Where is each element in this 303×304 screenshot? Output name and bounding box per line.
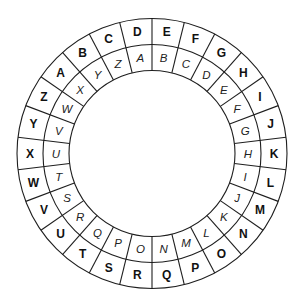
- inner-letter: X: [75, 84, 85, 96]
- inner-ring-letters: BCDEFGHIJKLMNOPQRSTUVWXYZA: [52, 52, 253, 255]
- outer-letter: S: [105, 261, 113, 275]
- inner-letter: O: [136, 243, 145, 255]
- outer-letter: R: [133, 268, 142, 282]
- outer-letter: D: [133, 25, 142, 39]
- outer-letter: X: [26, 147, 34, 161]
- outer-letter: E: [163, 25, 171, 39]
- outer-letter: A: [56, 66, 65, 80]
- inner-letter: E: [220, 84, 228, 96]
- outer-letter: M: [255, 203, 265, 217]
- inner-letter: N: [159, 243, 168, 255]
- inner-letter: Y: [94, 69, 103, 81]
- inner-letter: M: [181, 237, 191, 249]
- inner-letter: D: [202, 69, 210, 81]
- outer-letter: O: [217, 247, 226, 261]
- inner-letter: J: [233, 192, 240, 204]
- inner-letter: B: [160, 52, 168, 64]
- outer-letter: C: [104, 32, 113, 46]
- inner-letter: F: [233, 103, 241, 115]
- inner-letter: R: [76, 211, 84, 223]
- outer-letter: G: [217, 46, 226, 60]
- inner-letter: W: [62, 103, 74, 115]
- outer-letter: P: [191, 261, 199, 275]
- outer-letter: H: [239, 66, 248, 80]
- outer-letter: F: [192, 32, 199, 46]
- inner-letter: U: [52, 148, 61, 160]
- outer-letter: T: [79, 247, 87, 261]
- inner-ring-edge: [69, 71, 235, 237]
- outer-letter: Z: [40, 90, 47, 104]
- inner-letter: C: [182, 58, 191, 70]
- inner-letter: P: [114, 237, 122, 249]
- outer-letter: N: [239, 227, 248, 241]
- outer-letter: I: [258, 90, 261, 104]
- inner-letter: G: [241, 125, 250, 137]
- inner-letter: L: [203, 227, 209, 239]
- outer-letter: J: [267, 117, 274, 131]
- segment-divider: [120, 22, 132, 72]
- outer-letter: V: [40, 203, 48, 217]
- inner-letter: T: [55, 171, 63, 183]
- outer-letter: Q: [162, 268, 171, 282]
- outer-letter: B: [78, 46, 87, 60]
- ring-divider: [43, 45, 261, 263]
- outer-letter: W: [28, 176, 40, 190]
- inner-letter: Z: [113, 58, 122, 70]
- outer-letter: L: [267, 176, 274, 190]
- inner-letter: Q: [93, 227, 102, 239]
- inner-letter: I: [244, 171, 248, 183]
- inner-letter: V: [55, 125, 64, 137]
- inner-letter: K: [220, 211, 229, 223]
- outer-letter: U: [56, 227, 65, 241]
- cipher-wheel: EFGHIJKLMNOPQRSTUVWXYZABCD BCDEFGHIJKLMN…: [0, 0, 303, 304]
- outer-letter: Y: [29, 117, 37, 131]
- inner-letter: A: [136, 52, 145, 64]
- inner-letter: H: [244, 148, 253, 160]
- inner-letter: S: [63, 192, 71, 204]
- outer-letter: K: [270, 147, 279, 161]
